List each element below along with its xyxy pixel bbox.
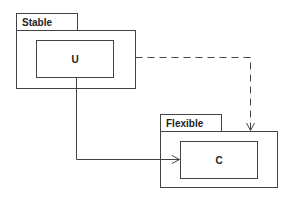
package-stable-label: Stable [22,17,52,28]
class-c-label: C [215,155,222,166]
package-stable: Stable U [17,14,136,89]
package-diagram: Stable U Flexible C [0,0,291,200]
class-u-label: U [71,54,78,65]
package-flexible: Flexible C [161,115,278,188]
package-flexible-label: Flexible [166,118,204,129]
